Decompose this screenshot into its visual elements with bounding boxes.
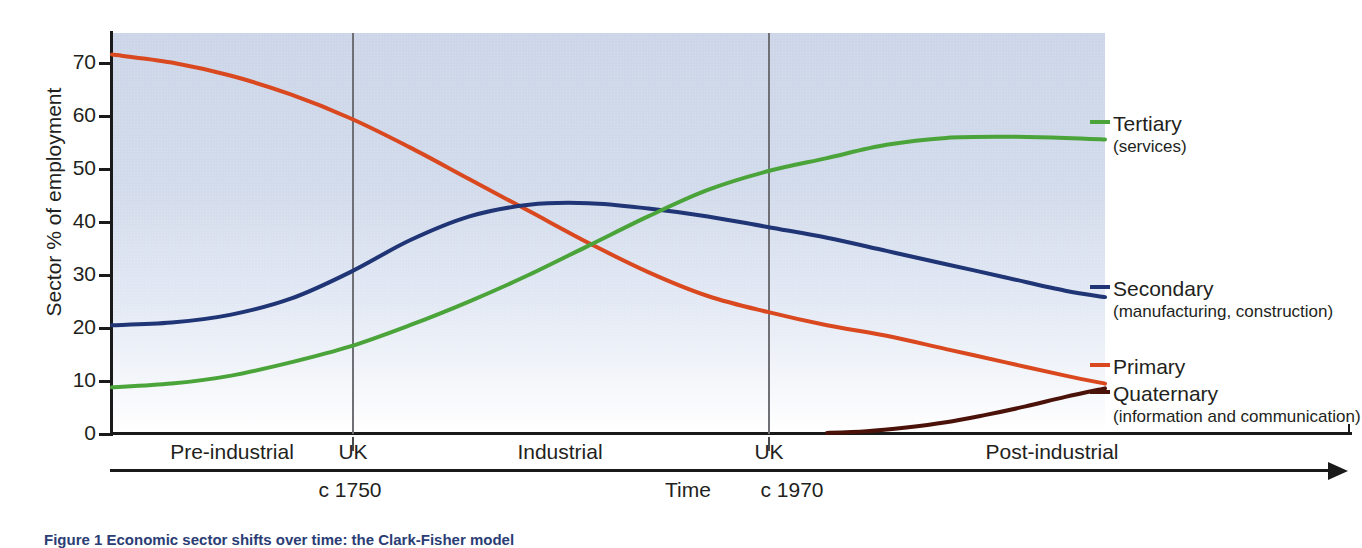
- series-sub-secondary: (manufacturing, construction): [1113, 302, 1333, 322]
- background-texture: [112, 33, 1105, 434]
- y-axis-title: Sector % of employment: [42, 52, 66, 352]
- series-name-quaternary: Quaternary: [1113, 382, 1218, 405]
- series-label-secondary: Secondary (manufacturing, construction): [1113, 277, 1333, 322]
- era-label-post-industrial: Post-industrial: [985, 440, 1118, 464]
- era-label-uk-2: UK: [754, 440, 783, 464]
- y-tick-50: [99, 168, 111, 171]
- figure-caption: Figure 1 Economic sector shifts over tim…: [44, 531, 514, 548]
- series-name-primary: Primary: [1113, 355, 1185, 378]
- series-label-quaternary: Quaternary (information and communicatio…: [1113, 382, 1361, 427]
- plot-background: [112, 33, 1105, 434]
- time-mark-1970: c 1970: [760, 478, 823, 502]
- time-axis-label: Time: [665, 478, 711, 502]
- series-label-tertiary: Tertiary (services): [1113, 112, 1187, 157]
- y-tick-10: [99, 380, 111, 383]
- y-tick-label-10: 10: [52, 368, 96, 392]
- series-sub-tertiary: (services): [1113, 137, 1187, 157]
- era-label-pre-industrial: Pre-industrial: [170, 440, 294, 464]
- chart-figure: 706050403020100 Sector % of employment P…: [0, 0, 1362, 548]
- series-sub-quaternary: (information and communication): [1113, 407, 1361, 427]
- era-label-industrial: Industrial: [517, 440, 602, 464]
- y-axis-line: [110, 31, 113, 436]
- y-tick-70: [99, 62, 111, 65]
- x-axis-line: [110, 432, 1352, 435]
- time-mark-1750: c 1750: [318, 478, 381, 502]
- series-name-tertiary: Tertiary: [1113, 112, 1182, 135]
- series-name-secondary: Secondary: [1113, 277, 1213, 300]
- y-tick-20: [99, 327, 111, 330]
- y-tick-30: [99, 274, 111, 277]
- y-tick-40: [99, 221, 111, 224]
- time-axis-line: [110, 469, 1332, 472]
- era-label-uk-1: UK: [338, 440, 367, 464]
- y-tick-60: [99, 115, 111, 118]
- y-tick-label-0: 0: [52, 421, 96, 445]
- series-label-primary: Primary: [1113, 355, 1185, 380]
- gridline-uk-1750: [352, 33, 354, 434]
- gridline-uk-1970: [768, 33, 770, 434]
- time-arrow-icon: [1328, 462, 1348, 480]
